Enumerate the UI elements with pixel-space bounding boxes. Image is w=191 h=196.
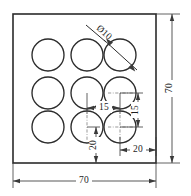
hole-r3-c1 bbox=[32, 111, 64, 143]
overall-height-label: 70 bbox=[164, 83, 174, 93]
diameter-callout: Ø10 bbox=[86, 23, 137, 72]
technical-drawing-canvas: Ø10 15 15 20 bbox=[0, 0, 191, 196]
offset-x-arrow-left bbox=[120, 148, 127, 152]
overall-width-label: 70 bbox=[79, 175, 89, 185]
drawing-svg: Ø10 15 15 20 bbox=[0, 0, 191, 196]
offset-x-arrow-right bbox=[149, 148, 156, 152]
overall-height-arrow-top bbox=[170, 14, 174, 21]
plate-outline bbox=[13, 14, 156, 163]
centre-marks bbox=[87, 93, 133, 140]
pitch-y-label: 15 bbox=[130, 105, 140, 115]
overall-height-arrow-bottom bbox=[170, 156, 174, 163]
pitch-y-dimension: 15 bbox=[120, 93, 145, 127]
overall-width-arrow-right bbox=[149, 179, 156, 183]
offset-y-dimension: 20 bbox=[87, 127, 103, 163]
pitch-x-dimension: 15 bbox=[87, 93, 120, 114]
hole-r1-c1 bbox=[32, 39, 64, 71]
pitch-x-label: 15 bbox=[99, 102, 109, 112]
offset-y-arrow-top bbox=[94, 127, 98, 134]
overall-height-dimension: 70 bbox=[156, 14, 180, 163]
offset-y-arrow-bottom bbox=[94, 156, 98, 163]
hole-r2-c1 bbox=[32, 77, 64, 109]
offset-x-label: 20 bbox=[133, 144, 143, 154]
offset-x-dimension: 20 bbox=[120, 137, 156, 156]
hole-r1-c2 bbox=[71, 39, 103, 71]
offset-y-label: 20 bbox=[88, 140, 98, 150]
overall-width-arrow-left bbox=[13, 179, 20, 183]
diameter-label: Ø10 bbox=[95, 23, 114, 42]
overall-width-dimension: 70 bbox=[13, 163, 156, 188]
